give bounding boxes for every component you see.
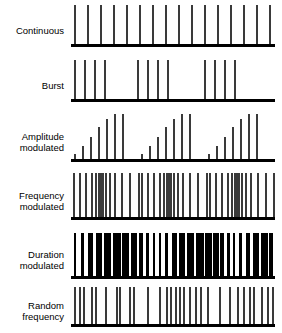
pulse <box>205 233 212 276</box>
row-label-frequency-modulated: Frequency modulated <box>0 190 64 212</box>
pulse <box>261 233 268 276</box>
row-label-random-frequency: Random frequency <box>0 300 64 322</box>
pulse <box>149 146 151 160</box>
baseline-frequency-modulated <box>71 217 275 220</box>
pulse <box>170 173 172 217</box>
baseline-continuous <box>71 44 275 47</box>
pulse <box>178 5 180 44</box>
pulse <box>131 233 137 276</box>
pulse <box>261 287 263 324</box>
pulse <box>114 173 116 217</box>
pulse <box>165 233 168 276</box>
pulse <box>147 287 149 324</box>
pulse <box>105 173 107 217</box>
pulse <box>257 173 259 217</box>
pulse <box>249 287 251 324</box>
pulse <box>189 173 191 217</box>
pulse <box>216 146 218 160</box>
pulse <box>84 60 86 99</box>
pulse <box>138 173 140 217</box>
pulse <box>114 114 116 159</box>
pulse <box>191 5 193 44</box>
pulse <box>232 127 234 160</box>
pulse <box>170 287 172 324</box>
pulse <box>269 5 271 44</box>
pulse <box>159 287 161 324</box>
pulse <box>213 233 219 276</box>
waveform-trace-duration-modulated <box>71 233 275 279</box>
pulse <box>231 173 233 217</box>
pulse <box>238 173 240 217</box>
pulse <box>157 137 159 160</box>
pulse <box>113 233 121 276</box>
pulse <box>214 60 216 99</box>
pulse <box>113 5 115 44</box>
pulse <box>122 114 124 159</box>
pulse <box>273 173 275 217</box>
pulse <box>267 287 269 324</box>
pulse <box>189 287 191 324</box>
pulse <box>98 127 100 160</box>
pulse <box>133 287 135 324</box>
baseline-random-frequency <box>71 324 275 327</box>
pulse <box>233 233 235 276</box>
pulse <box>250 173 252 217</box>
pulse <box>146 233 149 276</box>
pulse <box>104 233 111 276</box>
pulse <box>153 173 155 217</box>
pulse <box>126 5 128 44</box>
pulse <box>121 173 123 217</box>
pulse <box>157 60 159 99</box>
pulse <box>253 233 259 276</box>
pulse <box>256 114 258 159</box>
waveform-trace-continuous <box>71 5 275 47</box>
pulse <box>239 233 242 276</box>
pulse <box>159 233 161 276</box>
pulse <box>88 233 93 276</box>
pulse <box>73 173 75 217</box>
pulse <box>219 287 221 324</box>
pulse <box>265 173 267 217</box>
pulse-pattern-figure: ContinuousBurstAmplitude modulatedFreque… <box>0 0 282 333</box>
pulse <box>230 5 232 44</box>
pulse <box>90 137 92 160</box>
pulse <box>81 233 84 276</box>
pulse <box>195 287 197 324</box>
pulse <box>82 146 84 160</box>
pulse <box>96 233 102 276</box>
pulse <box>256 5 258 44</box>
pulse <box>221 173 223 217</box>
pulse <box>167 60 169 99</box>
pulse <box>163 173 165 217</box>
pulse <box>100 5 102 44</box>
pulse <box>129 173 131 217</box>
pulse <box>147 60 149 99</box>
pulse <box>224 60 226 99</box>
pulse <box>91 173 93 217</box>
pulse <box>253 287 255 324</box>
pulse <box>74 233 76 276</box>
baseline-duration-modulated <box>71 276 275 279</box>
pulse <box>243 287 245 324</box>
pulse <box>94 60 96 99</box>
pulse <box>109 173 111 217</box>
pulse <box>165 5 167 44</box>
pulse <box>85 173 87 217</box>
pulse <box>153 233 155 276</box>
pulse <box>175 287 177 324</box>
pulse <box>209 173 211 217</box>
pulse <box>207 287 209 324</box>
pulse <box>74 60 76 99</box>
pulse <box>119 287 121 324</box>
pulse <box>200 287 202 324</box>
waveform-trace-burst <box>71 60 275 102</box>
pulse <box>95 287 97 324</box>
row-label-amplitude-modulated: Amplitude modulated <box>0 131 64 153</box>
pulse <box>189 114 191 159</box>
row-label-duration-modulated: Duration modulated <box>0 249 64 271</box>
pulse <box>173 173 175 217</box>
pulse <box>139 233 143 276</box>
pulse <box>234 60 236 99</box>
pulse <box>129 287 131 324</box>
pulse <box>182 173 184 217</box>
